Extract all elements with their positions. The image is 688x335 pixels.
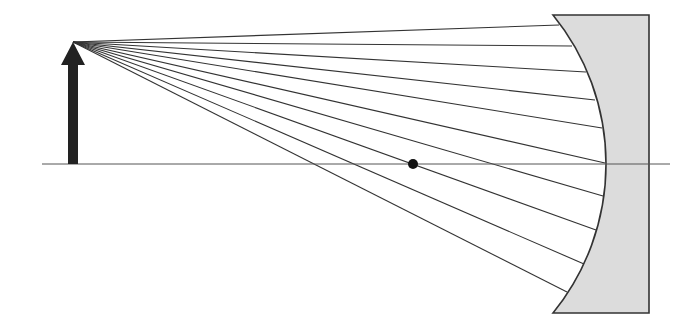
diagram-canvas bbox=[0, 0, 688, 335]
ray-line bbox=[73, 42, 567, 292]
object-arrow-shape bbox=[61, 42, 85, 164]
focal-point-dot bbox=[408, 159, 418, 169]
focal-point bbox=[408, 159, 418, 169]
ray-line bbox=[73, 42, 584, 264]
ray-line bbox=[73, 42, 603, 196]
object-arrow-icon bbox=[61, 42, 85, 164]
ray-line bbox=[73, 42, 605, 163]
ray-diagram bbox=[0, 0, 688, 335]
light-rays bbox=[73, 25, 605, 292]
ray-line bbox=[73, 42, 586, 72]
ray-line bbox=[73, 42, 572, 46]
ray-line bbox=[73, 42, 602, 128]
ray-line bbox=[73, 42, 596, 230]
ray-line bbox=[73, 25, 559, 42]
ray-line bbox=[73, 42, 595, 100]
